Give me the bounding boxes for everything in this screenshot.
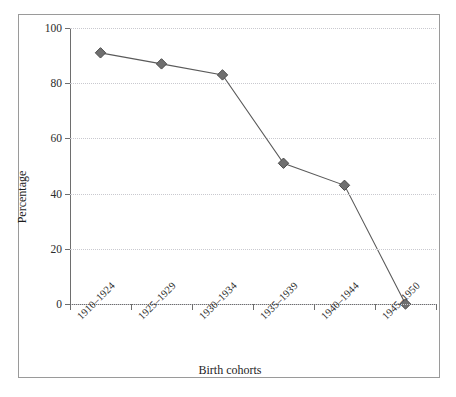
x-axis-title: Birth cohorts bbox=[19, 363, 441, 378]
gridline bbox=[70, 194, 436, 195]
series-line-and-markers bbox=[70, 28, 436, 304]
gridline bbox=[70, 28, 436, 29]
y-axis-title: Percentage bbox=[15, 15, 33, 379]
y-tick-mark bbox=[65, 249, 70, 250]
data-point-marker[interactable] bbox=[156, 59, 166, 69]
gridline bbox=[70, 249, 436, 250]
gridline bbox=[70, 138, 436, 139]
y-tick-mark bbox=[65, 28, 70, 29]
y-tick-mark bbox=[65, 138, 70, 139]
x-tick-mark bbox=[375, 304, 376, 310]
x-tick-mark bbox=[436, 304, 437, 310]
chart-figure: 0204060801001910–19241925–19291930–19341… bbox=[18, 14, 440, 378]
data-point-marker[interactable] bbox=[217, 70, 227, 80]
data-point-marker[interactable] bbox=[95, 48, 105, 58]
x-tick-mark bbox=[192, 304, 193, 310]
data-point-marker[interactable] bbox=[339, 180, 349, 190]
x-tick-mark bbox=[131, 304, 132, 310]
y-tick-mark bbox=[65, 83, 70, 84]
gridline bbox=[70, 83, 436, 84]
x-tick-mark bbox=[253, 304, 254, 310]
y-tick-label: 0 bbox=[56, 298, 62, 310]
x-tick-mark bbox=[70, 304, 71, 310]
y-tick-label: 20 bbox=[51, 243, 63, 255]
y-tick-label: 40 bbox=[51, 188, 63, 200]
data-point-marker[interactable] bbox=[278, 158, 288, 168]
y-tick-label: 100 bbox=[45, 22, 62, 34]
plot-area: 0204060801001910–19241925–19291930–19341… bbox=[70, 28, 436, 304]
series-line bbox=[101, 53, 406, 304]
y-tick-mark bbox=[65, 194, 70, 195]
y-tick-label: 80 bbox=[51, 77, 63, 89]
x-tick-mark bbox=[314, 304, 315, 310]
y-tick-label: 60 bbox=[51, 132, 63, 144]
